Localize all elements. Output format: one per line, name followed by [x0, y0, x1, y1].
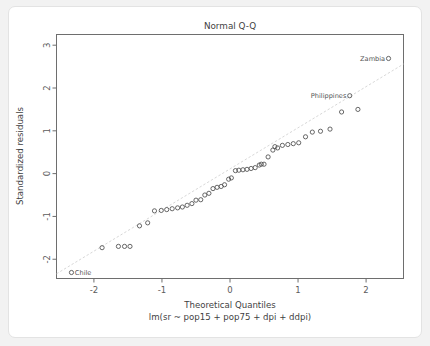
qq-data-point [69, 270, 73, 274]
plot-subtitle: lm(sr ~ pop15 + pop75 + dpi + ddpi) [149, 312, 311, 322]
qq-data-point [253, 166, 257, 170]
x-tick-label: 1 [295, 285, 300, 295]
qq-data-point [128, 244, 132, 248]
qq-data-point [245, 167, 249, 171]
qq-data-point [194, 198, 198, 202]
qq-data-point [203, 193, 207, 197]
qq-data-point [137, 224, 141, 228]
qq-data-point [280, 143, 284, 147]
qq-data-point [266, 155, 270, 159]
y-tick-label: 2 [43, 85, 53, 90]
qq-data-point [286, 142, 290, 146]
plot-title: Normal Q-Q [204, 21, 256, 31]
qq-data-point [199, 198, 203, 202]
y-axis-label: Standardized residuals [15, 106, 25, 205]
qq-plot-svg: ChileZambiaPhilippines -2-1012 -2-10123 … [9, 7, 423, 339]
y-tick-label: 3 [43, 42, 53, 47]
qq-data-point [170, 207, 174, 211]
qq-data-point [291, 142, 295, 146]
qq-data-point [241, 168, 245, 172]
y-tick-label: 0 [43, 171, 53, 176]
qq-data-point [152, 209, 156, 213]
figure-page: ChileZambiaPhilippines -2-1012 -2-10123 … [0, 0, 430, 346]
qq-data-point [116, 244, 120, 248]
qq-data-point [159, 208, 163, 212]
y-tick-label: 1 [43, 128, 53, 133]
qq-data-point [328, 127, 332, 131]
outlier-label-philippines: Philippines [311, 92, 347, 100]
qq-data-point [215, 185, 219, 189]
x-tick-label: -1 [158, 285, 166, 295]
qq-data-point [190, 201, 194, 205]
qq-data-point [339, 110, 343, 114]
point-labels-group: ChileZambiaPhilippines [75, 55, 385, 277]
x-tick-label: 2 [363, 285, 368, 295]
y-axis-ticks: -2-10123 [43, 42, 57, 263]
x-axis-ticks: -2-1012 [90, 279, 369, 295]
y-tick-label: -1 [43, 212, 53, 220]
x-tick-label: -2 [90, 285, 98, 295]
figure-card: ChileZambiaPhilippines -2-1012 -2-10123 … [8, 6, 422, 338]
x-tick-label: 0 [227, 285, 232, 295]
qq-data-point [180, 205, 184, 209]
qq-data-point [297, 141, 301, 145]
qq-data-point [222, 183, 226, 187]
qq-data-point [146, 221, 150, 225]
qq-data-point [356, 107, 360, 111]
qq-data-point [318, 129, 322, 133]
qq-data-point [207, 191, 211, 195]
qq-data-point [185, 203, 189, 207]
qq-data-point [310, 130, 314, 134]
x-axis-label: Theoretical Quantiles [183, 300, 276, 310]
qq-data-point [211, 187, 215, 191]
qq-data-point [122, 244, 126, 248]
data-points-group [69, 56, 390, 274]
qq-data-point [176, 206, 180, 210]
qq-data-point [386, 56, 390, 60]
y-tick-label: -2 [43, 255, 53, 263]
qq-data-point [249, 166, 253, 170]
outlier-label-chile: Chile [75, 269, 92, 277]
plot-frame [57, 35, 404, 279]
qq-data-point [303, 135, 307, 139]
qq-data-point [165, 207, 169, 211]
outlier-label-zambia: Zambia [360, 55, 385, 63]
